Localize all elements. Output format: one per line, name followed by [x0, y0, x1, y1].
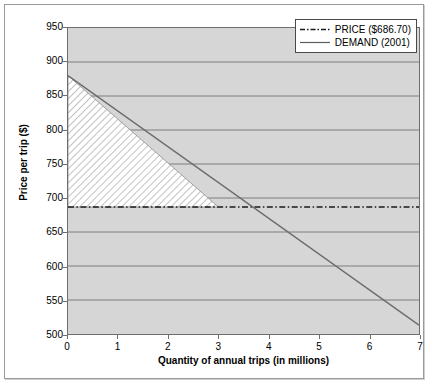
y-tick-mark — [63, 95, 67, 96]
legend-item-price[interactable]: PRICE ($686.70) — [300, 23, 411, 36]
legend-item-demand[interactable]: DEMAND (2001) — [300, 36, 411, 49]
x-tick-label: 6 — [355, 342, 385, 352]
legend-label-demand: DEMAND (2001) — [335, 38, 410, 48]
x-tick-mark — [319, 335, 320, 339]
plot-area — [67, 27, 420, 335]
x-tick-label: 0 — [52, 342, 82, 352]
y-tick-mark — [63, 232, 67, 233]
consumer-surplus-polygon — [68, 76, 218, 207]
legend-label-price: PRICE ($686.70) — [335, 25, 411, 35]
x-tick-label: 3 — [203, 342, 233, 352]
y-tick-mark — [63, 130, 67, 131]
x-tick-label: 7 — [405, 342, 432, 352]
x-tick-label: 2 — [153, 342, 183, 352]
y-tick-mark — [63, 27, 67, 28]
solid-line-key — [300, 37, 330, 48]
y-tick-label: 900 — [17, 56, 63, 66]
y-axis-title: Price per trip ($) — [18, 83, 29, 243]
x-tick-label: 4 — [254, 342, 284, 352]
x-tick-mark — [370, 335, 371, 339]
dash-dot-line-key — [300, 24, 330, 35]
y-tick-label: 550 — [17, 296, 63, 306]
y-tick-mark — [63, 164, 67, 165]
x-tick-mark — [67, 335, 68, 339]
x-tick-mark — [269, 335, 270, 339]
consumer-surplus-region — [68, 76, 218, 207]
x-tick-label: 5 — [304, 342, 334, 352]
y-tick-mark — [63, 267, 67, 268]
x-tick-label: 1 — [102, 342, 132, 352]
x-axis-title: Quantity of annual trips (in millions) — [67, 355, 420, 366]
y-tick-mark — [63, 198, 67, 199]
x-tick-mark — [168, 335, 169, 339]
y-tick-label: 500 — [17, 330, 63, 340]
chart-legend[interactable]: PRICE ($686.70) DEMAND (2001) — [295, 19, 417, 53]
plot-canvas — [68, 28, 419, 334]
y-tick-mark — [63, 61, 67, 62]
y-tick-label: 950 — [17, 22, 63, 32]
x-tick-mark — [117, 335, 118, 339]
y-tick-label: 600 — [17, 262, 63, 272]
x-tick-mark — [218, 335, 219, 339]
chart-frame: 500550600650700750800850900950 01234567 … — [4, 4, 424, 379]
y-tick-mark — [63, 301, 67, 302]
x-tick-mark — [420, 335, 421, 339]
